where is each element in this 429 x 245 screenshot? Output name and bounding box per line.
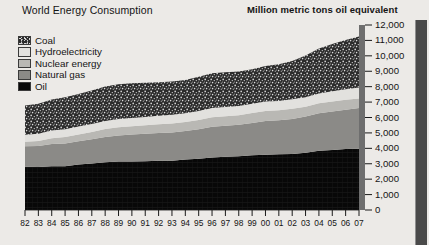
coal-swatch-icon	[18, 36, 31, 46]
y-axis-tick-label: 8,000	[375, 81, 399, 92]
y-axis-tick-label: 5,000	[375, 127, 399, 138]
y-axis-tick-label: 9,000	[375, 65, 399, 76]
right-edge-bar	[415, 20, 427, 245]
y-axis-tick-label: 4,000	[375, 142, 399, 153]
y-axis-tick-label: 0	[375, 204, 380, 215]
y-axis-spine	[359, 25, 365, 210]
y-axis-tick-label: 10,000	[375, 50, 404, 61]
chart-legend: Coal Hydroelectricity Nuclear energy Nat…	[18, 35, 102, 92]
legend-item-oil: Oil	[18, 81, 102, 92]
y-axis-tick-label: 6,000	[375, 112, 399, 123]
legend-item-coal: Coal	[18, 35, 102, 46]
legend-item-natural-gas: Natural gas	[18, 69, 102, 80]
oil-swatch-icon	[18, 82, 31, 92]
legend-label-coal: Coal	[35, 35, 55, 46]
natural-gas-swatch-icon	[18, 70, 31, 80]
legend-label-nuclear-energy: Nuclear energy	[35, 58, 101, 69]
legend-label-natural-gas: Natural gas	[35, 69, 85, 80]
legend-item-hydroelectricity: Hydroelectricity	[18, 46, 102, 57]
nuclear-energy-swatch-icon	[18, 59, 31, 69]
hydroelectricity-swatch-icon	[18, 47, 31, 57]
y-axis-tick-label: 7,000	[375, 96, 399, 107]
legend-item-nuclear-energy: Nuclear energy	[18, 58, 102, 69]
legend-label-hydroelectricity: Hydroelectricity	[35, 46, 102, 57]
chart-page: World Energy Consumption Million metric …	[0, 0, 429, 245]
y-axis-tick-label: 2,000	[375, 173, 399, 184]
legend-label-oil: Oil	[35, 81, 47, 92]
y-axis-tick-label: 1,000	[375, 189, 399, 200]
y-axis-tick-label: 12,000	[375, 19, 404, 30]
y-axis-tick-label: 3,000	[375, 158, 399, 169]
y-axis-tick-label: 11,000	[375, 34, 404, 45]
x-axis-tick-label: 07	[351, 218, 367, 228]
